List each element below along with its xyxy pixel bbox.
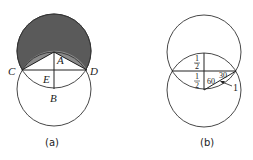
frac-bottom-num: 1 — [195, 72, 199, 81]
label-c: C — [8, 65, 16, 77]
caption-a: (a) — [45, 137, 59, 148]
label-e: E — [42, 73, 50, 85]
label-b: B — [50, 92, 57, 104]
radius-label: 1 — [233, 82, 238, 93]
angle-60-label: 60 — [207, 77, 215, 86]
diagram-canvas: A B C D E (a) 1 2 1 2 60 30 1 (b) — [0, 0, 253, 160]
label-d: D — [89, 65, 98, 77]
figure-a: A B C D E (a) — [8, 14, 98, 148]
frac-top-den: 2 — [195, 62, 199, 71]
figure-b: 1 2 1 2 60 30 1 (b) — [167, 15, 241, 148]
caption-b: (b) — [200, 137, 214, 148]
frac-bottom-den: 2 — [195, 81, 199, 90]
label-a: A — [56, 54, 64, 66]
angle-30-label: 30 — [219, 71, 227, 80]
